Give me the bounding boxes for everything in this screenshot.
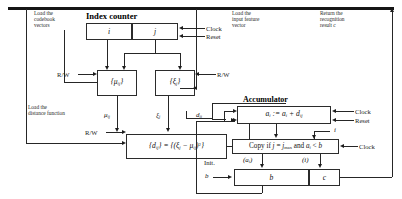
counter-i-label: i <box>108 28 110 36</box>
counter-reset-wire <box>183 36 205 37</box>
wire-label-i-feed: i <box>334 126 336 134</box>
accumulator-in1-wire <box>224 111 235 112</box>
b-feedback-into-acc <box>196 121 232 122</box>
mu-rw-arrow <box>93 72 97 76</box>
copy-clock-wire <box>344 146 358 147</box>
accumulator-out-arrow <box>274 134 278 138</box>
xi-to-distance-arrow <box>166 128 170 132</box>
counter-clock-arrow <box>179 26 183 30</box>
label-return-result: Return the recognition result c <box>320 10 370 28</box>
c-out-wire <box>340 177 392 178</box>
counter-clock-wire <box>183 28 205 29</box>
accumulator-block[interactable]: ai := ai + dij <box>237 106 331 124</box>
distance-left-feedback-v <box>186 111 187 118</box>
c-out-arrow <box>390 8 394 12</box>
accumulator-title: Accumulator <box>243 95 288 104</box>
accumulator-clock-arrow <box>332 109 336 113</box>
xi-store-label: {ξj} <box>170 78 181 87</box>
accumulator-in1-riser <box>224 111 225 121</box>
signal-rw-xi: R/W <box>217 71 229 78</box>
signal-clock-accumulator: Clock <box>355 108 371 115</box>
left-trunk-line <box>26 9 27 144</box>
xi-rw-wire <box>199 74 216 75</box>
counter-j-bridge <box>124 53 180 54</box>
signal-clock-copy: Clock <box>359 143 375 150</box>
label-init: Init. <box>204 159 215 166</box>
label-init-b: b <box>205 172 209 180</box>
mu-to-distance-line <box>117 96 118 129</box>
b-feedback-down <box>262 186 263 193</box>
copy-to-b-arrow <box>260 164 264 168</box>
c-out-riser <box>392 10 393 177</box>
register-c-block[interactable]: c <box>309 169 340 186</box>
register-c-label: c <box>323 174 326 182</box>
copy-clock-arrow <box>340 144 344 148</box>
wire-label-xi: ξj <box>156 111 160 119</box>
xi-store-sub: j <box>176 82 177 87</box>
counter-i-out-line <box>107 40 108 68</box>
distance-feedback-h <box>186 118 212 119</box>
accumulator-reset-wire <box>336 120 354 121</box>
copy-condition-label: Copy if j = jmax and ai < b <box>249 143 322 151</box>
distance-function-block[interactable]: {dij} = {(ξj − μij)2} <box>126 134 227 159</box>
input-feature-arrow <box>193 86 197 90</box>
mu-store-block[interactable]: {μij} <box>97 70 137 96</box>
left-trunk-bottom <box>26 143 124 144</box>
copy-i-wire <box>314 131 330 132</box>
signal-clock-counter: Clock <box>206 25 222 32</box>
block-diagram: Load the codebook vectors Load the input… <box>0 0 402 199</box>
wire-label-i-paren: (i) <box>302 156 309 164</box>
accumulator-formula-label: ai := ai + dij <box>265 110 302 119</box>
wire-label-mu: μij <box>104 111 110 119</box>
copy-to-c-arrow <box>318 164 322 168</box>
signal-rw-mu: R/W <box>57 71 69 78</box>
mu-store-sub: ij <box>118 82 121 87</box>
label-load-codebook: Load the codebook vectors <box>34 10 76 28</box>
signal-rw-distance: R/W <box>85 129 97 136</box>
accumulator-reset-arrow <box>332 118 336 122</box>
counter-reset-arrow <box>179 34 183 38</box>
accumulator-clock-wire <box>336 111 354 112</box>
b-feedback-up <box>196 121 197 193</box>
label-load-distance: Load the distance function <box>28 104 84 116</box>
register-b-label: b <box>270 174 274 182</box>
xi-to-distance-line <box>168 96 169 129</box>
copy-i-arrow <box>312 135 316 139</box>
b-feedback-bottom <box>196 193 262 194</box>
signal-reset-counter: Reset <box>206 33 221 40</box>
signal-reset-accumulator: Reset <box>355 117 370 124</box>
counter-j-cell[interactable]: j <box>132 23 178 40</box>
counter-i-cell[interactable]: i <box>86 23 132 40</box>
index-counter-title: Index counter <box>86 11 137 21</box>
wire-label-ai: (ai) <box>243 156 252 164</box>
copy-condition-block[interactable]: Copy if j = jmax and ai < b <box>232 139 339 154</box>
init-b-arrow <box>228 175 232 179</box>
distance-out-down <box>212 103 213 119</box>
mu-store-label: {μij} <box>111 78 124 87</box>
label-load-input-feature: Load the input feature vector <box>232 10 282 28</box>
counter-j-label: j <box>154 28 156 36</box>
input-feature-trunk <box>196 9 197 88</box>
distance-rw-arrow <box>122 130 126 134</box>
counter-j-out-line <box>155 40 156 53</box>
register-b-block[interactable]: b <box>234 169 309 186</box>
xi-store-block[interactable]: {ξj} <box>155 70 195 96</box>
